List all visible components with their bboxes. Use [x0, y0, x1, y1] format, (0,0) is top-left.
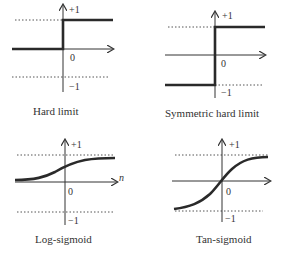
hard-limit-title: Hard limit — [33, 105, 79, 117]
zero-label: 0 — [68, 186, 73, 197]
plus-one-label: +1 — [71, 139, 82, 150]
symmetric-hard-limit-title: Symmetric hard limit — [165, 107, 259, 119]
zero-label: 0 — [221, 58, 226, 69]
tan-sigmoid-plot — [172, 140, 270, 222]
hard-limit-plot — [12, 5, 113, 92]
plus-one-label: +1 — [69, 4, 80, 15]
minus-one-label: −1 — [69, 81, 80, 92]
x-axis-n-label: n — [119, 172, 124, 183]
minus-one-label: −1 — [221, 87, 232, 98]
zero-label: 0 — [70, 52, 75, 63]
minus-one-label: −1 — [225, 213, 236, 224]
plus-one-label: +1 — [229, 139, 240, 150]
minus-one-label: −1 — [68, 215, 79, 226]
hard-limit-curve — [12, 20, 113, 49]
activation-functions-diagram — [0, 0, 285, 260]
plus-one-label: +1 — [222, 10, 233, 21]
log-sigmoid-plot — [15, 140, 117, 225]
symmetric-hard-limit-plot — [165, 12, 265, 98]
tan-sigmoid-title: Tan-sigmoid — [196, 233, 251, 245]
zero-label: 0 — [226, 186, 231, 197]
tan-sigmoid-curve — [174, 157, 268, 209]
log-sigmoid-title: Log-sigmoid — [35, 233, 92, 245]
symmetric-hard-limit-curve — [165, 27, 265, 85]
